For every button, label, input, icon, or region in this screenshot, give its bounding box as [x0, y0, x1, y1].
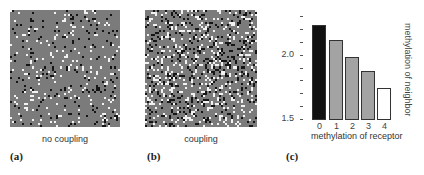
bar-2	[345, 57, 359, 120]
y-tick	[300, 119, 303, 120]
y-tick	[300, 42, 303, 43]
x-tick-label: 1	[330, 121, 343, 131]
x-tick-label: 2	[346, 121, 359, 131]
x-tick-label: 4	[378, 121, 391, 131]
x-tick-label: 3	[362, 121, 375, 131]
y-tick	[300, 29, 303, 30]
lattice-no-coupling	[10, 10, 120, 127]
y-tick-label: 1.5	[274, 113, 294, 123]
x-tick-label: 0	[313, 121, 326, 131]
bar-4	[377, 88, 391, 120]
y-tick	[300, 68, 303, 69]
panel-label-b: (b)	[147, 150, 160, 162]
caption-no-coupling: no coupling	[10, 134, 120, 144]
y-tick	[300, 106, 303, 107]
panel-label-a: (a)	[10, 150, 23, 162]
y-tick-label: 2.0	[274, 49, 294, 59]
x-axis-label: methylation of receptor	[311, 131, 403, 141]
panel-label-c: (c)	[286, 150, 298, 162]
lattice-coupling	[145, 10, 257, 127]
y-tick	[300, 93, 303, 94]
y-tick	[300, 16, 303, 17]
caption-coupling: coupling	[145, 134, 257, 144]
bar-chart: 2.01.501234methylation of receptormethyl…	[270, 0, 424, 150]
bar-3	[361, 71, 375, 120]
y-tick	[300, 80, 303, 81]
y-axis-label: methylation of neighbor	[403, 23, 413, 117]
bar-1	[329, 40, 343, 120]
bar-0	[312, 25, 326, 120]
y-tick	[300, 55, 303, 56]
